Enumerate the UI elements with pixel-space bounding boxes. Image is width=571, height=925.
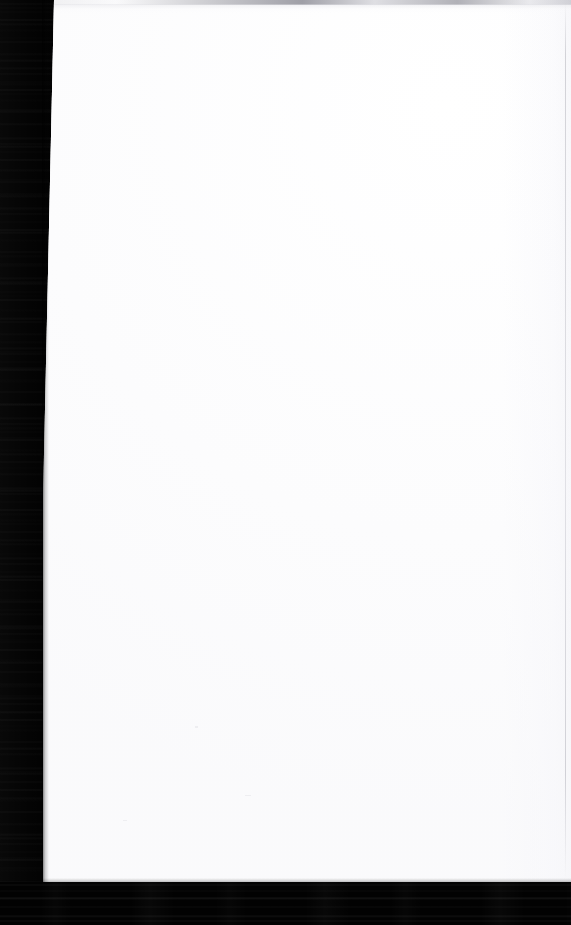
page-body-text — [70, 60, 500, 820]
scanner-bed-bottom-band — [0, 882, 571, 925]
dust-speck — [123, 820, 127, 821]
bottom-band-horizontal-noise — [0, 882, 571, 925]
scanned-page-viewport — [0, 0, 571, 925]
scanned-sheet — [0, 0, 571, 883]
